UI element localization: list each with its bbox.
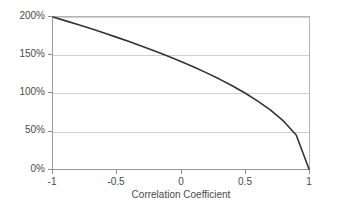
x-tick-label-neg05: -0.5 [107, 176, 124, 187]
x-tick-label-neg1: -1 [48, 176, 57, 187]
x-tick-mark-neg1 [52, 170, 53, 174]
x-tick-mark-1 [309, 170, 310, 174]
chart-container: 200% 150% 100% 50% 0% -1 -0.5 0 0.5 1 Co… [0, 0, 340, 204]
y-tick-label-100: 100% [3, 87, 45, 97]
x-axis-title: Correlation Coefficient [52, 189, 310, 200]
y-tick-label-0: 0% [3, 164, 45, 174]
x-tick-mark-neg05 [116, 170, 117, 174]
x-tick-label-0: 0 [178, 176, 184, 187]
x-tick-mark-0 [181, 170, 182, 174]
x-tick-mark-05 [245, 170, 246, 174]
y-tick-label-200: 200% [3, 11, 45, 21]
plot-area [52, 16, 310, 170]
x-tick-label-05: 0.5 [238, 176, 252, 187]
y-axis-tick-labels: 200% 150% 100% 50% 0% [0, 16, 45, 170]
x-tick-label-1: 1 [306, 176, 312, 187]
y-tick-label-150: 150% [3, 49, 45, 59]
y-tick-label-50: 50% [3, 125, 45, 135]
data-series-line [53, 17, 309, 169]
